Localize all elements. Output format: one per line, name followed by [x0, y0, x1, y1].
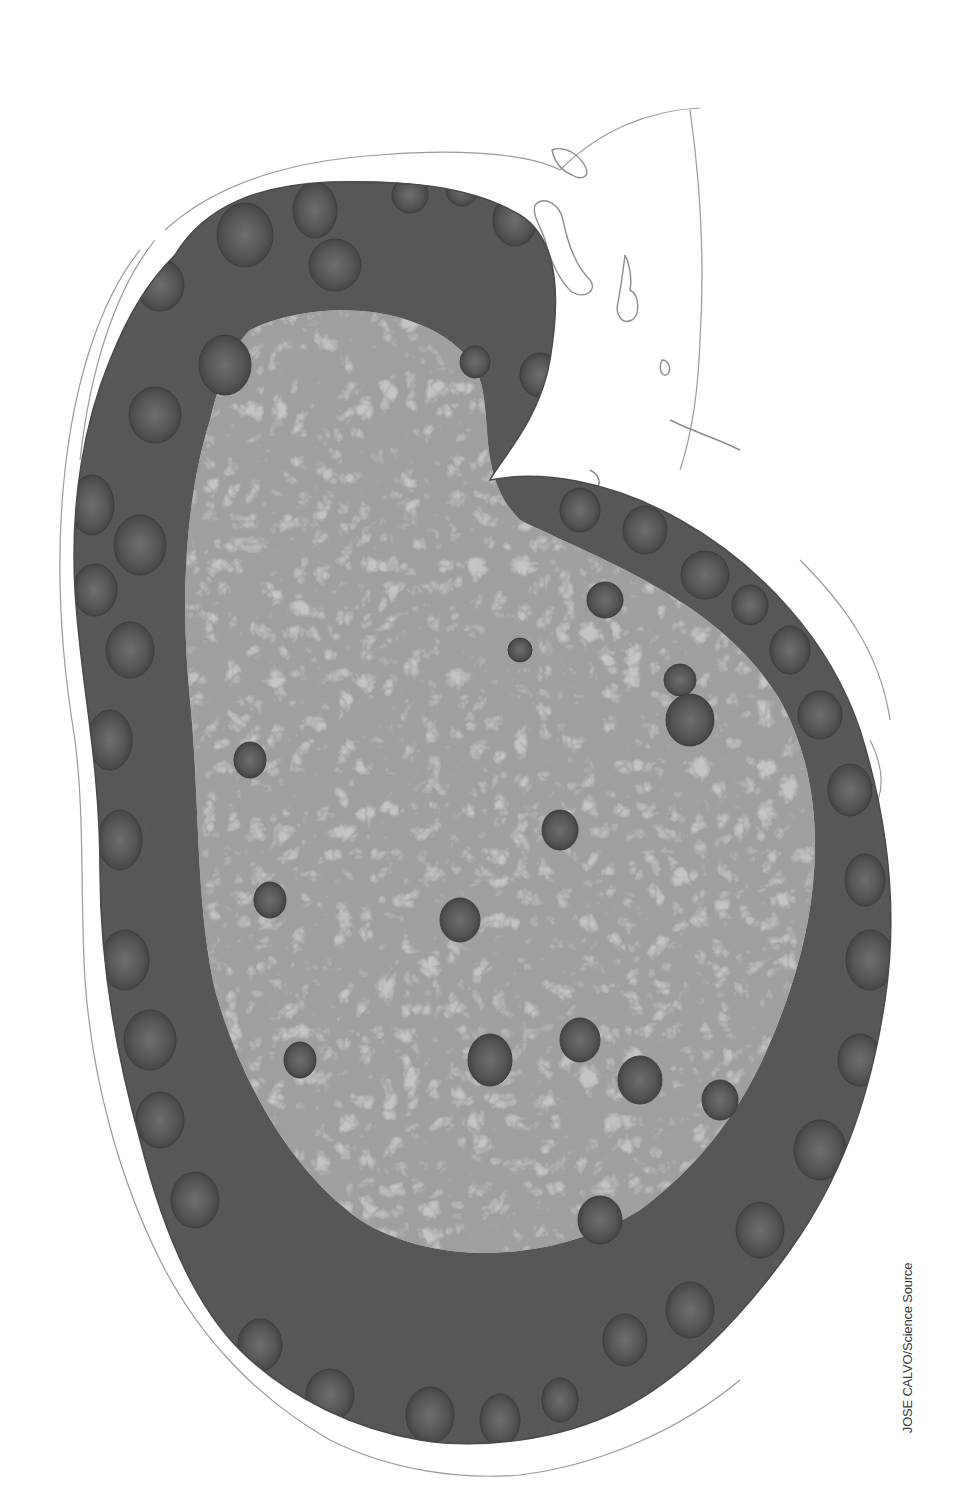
- photo-credit: JOSE CALVO/Science Source: [900, 1263, 915, 1433]
- vessels: [534, 149, 740, 488]
- lymph-node-micrograph: [0, 0, 968, 1507]
- lymph-node-tissue: [0, 0, 968, 1507]
